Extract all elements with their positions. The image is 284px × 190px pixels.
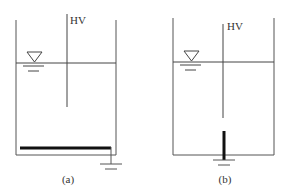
hv-label-b: HV <box>227 20 243 32</box>
tank-a-outline <box>16 20 116 155</box>
diagram-canvas: HV (a) HV (b) <box>0 0 284 190</box>
ground-symbol-icon <box>213 160 235 165</box>
diagram-b: HV (b) <box>173 18 274 186</box>
ground-symbol-icon <box>100 164 122 169</box>
caption-b: (b) <box>219 173 232 186</box>
caption-a: (a) <box>62 173 75 186</box>
hv-label-a: HV <box>70 14 86 26</box>
diagram-a: HV (a) <box>16 14 122 186</box>
water-level-triangle-icon <box>180 51 201 70</box>
water-level-triangle-icon <box>23 52 44 71</box>
